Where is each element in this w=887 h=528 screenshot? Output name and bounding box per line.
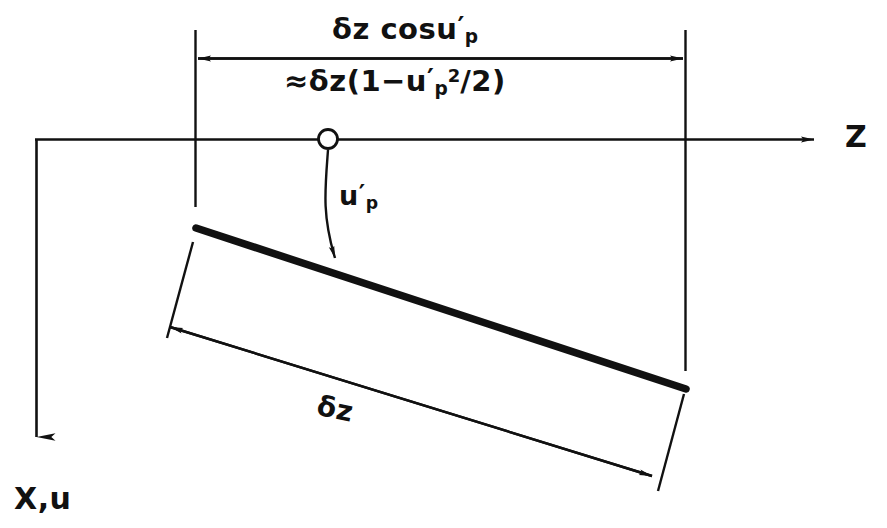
subscript-p: p [465, 26, 478, 47]
technical-diagram: δz cosu′p ≈δz(1−u′p2/2) u′p δz Z X,u [0, 0, 887, 528]
extension-line-right-bottom [658, 394, 684, 491]
approx-sign: ≈ [284, 64, 309, 98]
open-paren-text: (1− [347, 64, 406, 98]
prime-mark: ′ [457, 12, 464, 42]
projected-length-label: δz cosu′p [332, 14, 478, 47]
subscript-p: p [434, 78, 447, 99]
delta-z-text: δz [332, 12, 370, 46]
axis-group [35, 139, 814, 437]
projected-length-approx-label: ≈δz(1−u′p2/2) [284, 66, 506, 99]
node-marker-icon [319, 130, 338, 149]
xu-axis-label: X,u [14, 484, 71, 514]
inclined-beam-element [196, 228, 686, 389]
superscript-2: 2 [448, 65, 461, 86]
subscript-p: p [366, 193, 378, 213]
cos-text: cosu [380, 12, 457, 46]
delta-z-text: δz [314, 389, 356, 429]
dimension-line-element-right-arrow [170, 327, 652, 476]
delta-z-text: δz [309, 64, 347, 98]
prime-mark: ′ [359, 179, 366, 208]
u-text: u [339, 180, 359, 211]
rotation-angle-arc [325, 150, 335, 258]
element-length-label: δz [314, 392, 355, 427]
z-axis-label: Z [845, 122, 867, 152]
extension-line-left-bottom [167, 242, 193, 338]
close-paren-text: /2) [460, 64, 506, 98]
rotation-angle-label: u′p [339, 182, 378, 212]
u-text: u [406, 64, 427, 98]
